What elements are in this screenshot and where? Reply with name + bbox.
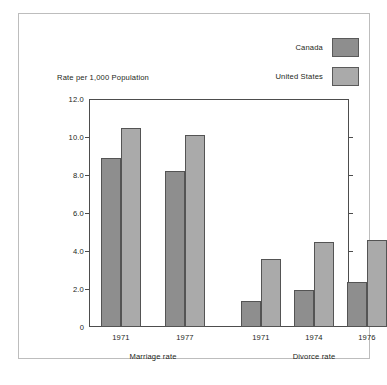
x-tick-label: 1971 [252, 333, 270, 342]
y-tick-mark [349, 251, 353, 252]
x-group-label: Marriage rate [129, 352, 176, 361]
y-tick-label: 0 [80, 323, 84, 332]
legend-item-canada: Canada [227, 36, 359, 58]
x-tick-label: 1976 [358, 333, 376, 342]
plot-area: 12.010.08.06.04.02.00 197119771971197419… [89, 99, 349, 327]
y-tick-label: 10.0 [69, 133, 84, 142]
x-tick-label: 1977 [176, 333, 194, 342]
y-tick-label: 8.0 [73, 171, 84, 180]
y-tick-mark [349, 213, 353, 214]
bar-canada-1976-4 [347, 282, 367, 327]
legend-label-united-states: United States [275, 72, 323, 81]
bar-canada-1971-2 [241, 301, 261, 327]
bar-united-states-1977-1 [185, 135, 205, 327]
legend-swatch-canada [332, 38, 359, 57]
bar-series-container [89, 99, 349, 327]
y-tick-label: 2.0 [73, 285, 84, 294]
bar-canada-1974-3 [294, 290, 314, 327]
legend-label-canada: Canada [295, 43, 323, 52]
bar-canada-1971-0 [101, 158, 121, 327]
y-tick-label: 6.0 [73, 209, 84, 218]
x-tick-label: 1974 [305, 333, 323, 342]
chart-legend: Canada United States [227, 36, 359, 94]
bar-united-states-1974-3 [314, 242, 334, 328]
x-tick-label: 1971 [112, 333, 130, 342]
y-tick-mark [349, 175, 353, 176]
bar-united-states-1971-2 [261, 259, 281, 327]
y-axis-title: Rate per 1,000 Population [57, 73, 149, 82]
bar-united-states-1976-4 [367, 240, 387, 327]
legend-item-united-states: United States [227, 65, 359, 87]
y-tick-label: 4.0 [73, 247, 84, 256]
legend-swatch-united-states [332, 67, 359, 86]
bar-united-states-1971-0 [121, 128, 141, 328]
y-tick-mark [349, 137, 353, 138]
y-tick-label: 12.0 [69, 95, 84, 104]
figure-frame: Canada United States Rate per 1,000 Popu… [18, 13, 370, 359]
x-group-label: Divorce rate [293, 352, 336, 361]
bar-canada-1977-1 [165, 171, 185, 327]
